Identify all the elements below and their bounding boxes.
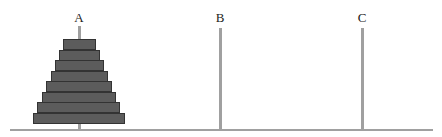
disk-7 — [37, 102, 120, 113]
disk-2 — [59, 50, 100, 61]
disk-5 — [46, 81, 112, 92]
peg-c — [361, 28, 364, 129]
peg-b — [219, 28, 222, 129]
peg-a-label: A — [74, 12, 83, 24]
baseline — [10, 129, 433, 131]
disk-3 — [55, 60, 104, 71]
disk-4 — [51, 71, 108, 82]
disk-6 — [42, 92, 116, 103]
disk-1 — [63, 39, 96, 50]
disk-8 — [33, 113, 125, 124]
peg-b-label: B — [216, 12, 225, 24]
peg-c-label: C — [358, 12, 367, 24]
